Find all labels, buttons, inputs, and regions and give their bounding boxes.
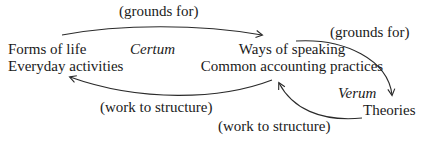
node-middle-line2: Common accounting practices — [200, 58, 384, 75]
node-middle: Ways of speaking Common accounting pract… — [200, 41, 384, 75]
node-middle-line1: Ways of speaking — [200, 41, 384, 58]
arrow-middle-to-left — [70, 77, 272, 95]
arrow-left-to-middle — [62, 27, 262, 35]
edge-label-middle-to-right: (grounds for) — [330, 24, 410, 41]
region-certum: Certum — [130, 41, 175, 58]
edge-label-middle-to-left: (work to structure) — [100, 99, 212, 116]
node-left-line2: Everyday activities — [8, 58, 123, 75]
node-left-line1: Forms of life — [8, 41, 123, 58]
edge-label-right-to-middle: (work to structure) — [218, 118, 330, 135]
edge-label-left-to-middle: (grounds for) — [119, 3, 199, 20]
node-right: Theories — [363, 102, 415, 119]
node-left: Forms of life Everyday activities — [8, 41, 123, 75]
diagram-canvas: (grounds for) (grounds for) (work to str… — [0, 0, 424, 143]
region-verum: Verum — [338, 85, 376, 102]
